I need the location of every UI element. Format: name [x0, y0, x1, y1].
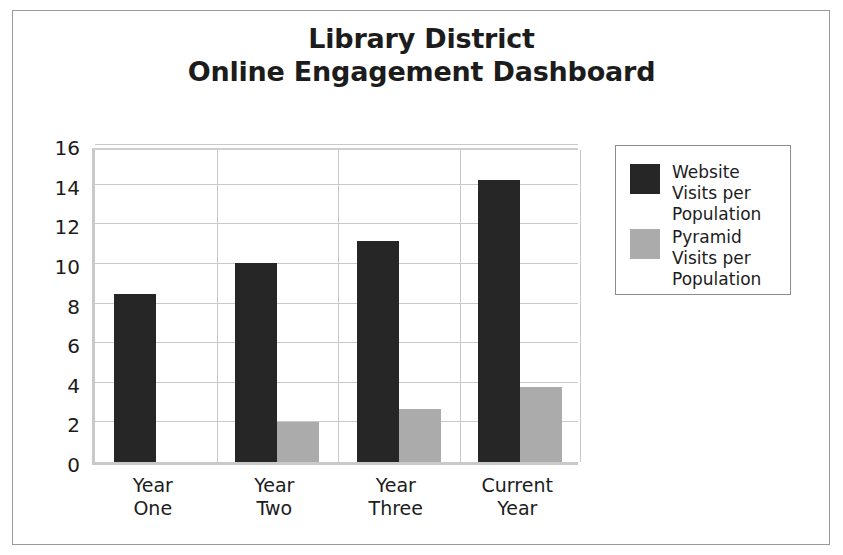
- x-axis-tick-label-line: Year: [214, 474, 336, 497]
- x-axis-tick-label-line: Three: [335, 497, 457, 520]
- legend-label-website-visits: Website Visits per Population: [672, 162, 790, 225]
- chart-title-line-2: Online Engagement Dashboard: [0, 55, 843, 88]
- bar-website-visits[interactable]: [114, 294, 156, 462]
- x-axis-tick-label-line: Year: [335, 474, 457, 497]
- legend-item-pyramid-visits[interactable]: Pyramid Visits per Population: [630, 227, 790, 290]
- x-axis-tick-label-line: Two: [214, 497, 336, 520]
- bar-website-visits[interactable]: [478, 180, 520, 462]
- legend-item-website-visits[interactable]: Website Visits per Population: [630, 162, 790, 225]
- chart-title-line-1: Library District: [0, 22, 843, 55]
- plot-area: [92, 148, 578, 465]
- gridline-vertical: [217, 150, 218, 462]
- bar-website-visits[interactable]: [357, 241, 399, 462]
- y-axis-tick-label: 4: [34, 376, 80, 396]
- x-axis-tick-label-line: Current: [457, 474, 579, 497]
- gridline-horizontal: [95, 144, 578, 145]
- x-axis-tick-label: CurrentYear: [457, 474, 579, 520]
- legend-swatch-pyramid-visits: [630, 229, 660, 259]
- y-axis-tick-label: 10: [34, 257, 80, 277]
- y-axis-tick-label: 2: [34, 415, 80, 435]
- bar-pyramid-visits[interactable]: [520, 387, 562, 462]
- x-axis-tick-label-line: One: [92, 497, 214, 520]
- x-axis-tick-label: YearTwo: [214, 474, 336, 520]
- x-axis-tick-label: YearOne: [92, 474, 214, 520]
- y-axis-tick-label: 8: [34, 297, 80, 317]
- gridline-vertical: [460, 150, 461, 462]
- bar-pyramid-visits[interactable]: [277, 422, 319, 462]
- legend-swatch-website-visits: [630, 164, 660, 194]
- legend-label-pyramid-visits: Pyramid Visits per Population: [672, 227, 790, 290]
- y-axis-tick-label: 6: [34, 336, 80, 356]
- gridline-vertical: [338, 150, 339, 462]
- y-axis-tick-labels: 1614121086420: [34, 0, 80, 555]
- bar-website-visits[interactable]: [235, 263, 277, 462]
- chart-title: Library District Online Engagement Dashb…: [0, 22, 843, 88]
- x-axis-tick-label-line: Year: [457, 497, 579, 520]
- x-axis-tick-label-line: Year: [92, 474, 214, 497]
- chart-legend: Website Visits per Population Pyramid Vi…: [615, 145, 791, 295]
- y-axis-tick-label: 0: [34, 455, 80, 475]
- chart-figure: Library District Online Engagement Dashb…: [0, 0, 843, 555]
- y-axis-tick-label: 12: [34, 217, 80, 237]
- x-axis-tick-label: YearThree: [335, 474, 457, 520]
- y-axis-tick-label: 16: [34, 138, 80, 158]
- y-axis-tick-label: 14: [34, 178, 80, 198]
- bar-pyramid-visits[interactable]: [399, 409, 441, 462]
- gridline-vertical: [580, 150, 581, 462]
